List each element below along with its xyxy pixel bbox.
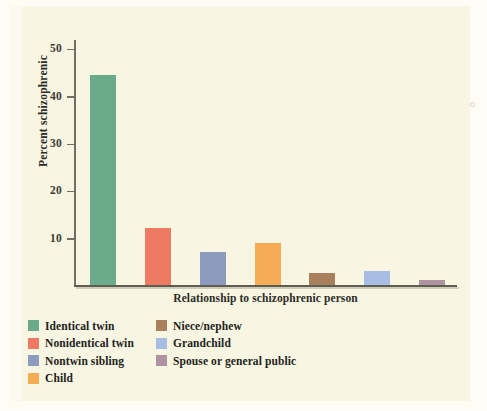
legend-item: Nontwin sibling: [28, 352, 134, 370]
legend-item-label: Identical twin: [45, 320, 114, 332]
legend-swatch-icon: [156, 338, 167, 349]
y-axis-tick-mark: [67, 144, 74, 146]
legend-item: Nonidentical twin: [28, 335, 134, 353]
legend-item-label: Niece/nephew: [173, 320, 242, 332]
legend-item: Spouse or general public: [156, 352, 296, 370]
x-axis-title: Relationship to schizophrenic person: [74, 292, 457, 304]
legend-swatch-icon: [28, 355, 39, 366]
bar: [90, 75, 116, 285]
y-axis-tick-mark: [67, 191, 74, 193]
y-axis-tick-mark: [67, 96, 74, 98]
x-axis-shadow: [76, 287, 459, 289]
legend-item: Grandchild: [156, 335, 296, 353]
y-axis-tick-mark: [67, 49, 74, 51]
y-axis-tick-label: 10: [22, 232, 62, 244]
legend-item: Child: [28, 370, 134, 388]
legend-column-right: Niece/nephewGrandchildSpouse or general …: [156, 317, 296, 370]
bars-container: [74, 40, 457, 285]
bar: [145, 228, 171, 285]
bar: [309, 273, 335, 285]
scan-artifact-dot: [470, 102, 475, 107]
legend-swatch-icon: [28, 320, 39, 331]
bar: [255, 243, 281, 285]
legend-item-label: Grandchild: [173, 337, 231, 349]
legend-item-label: Nontwin sibling: [45, 355, 124, 367]
y-axis-title: Percent schizophrenic: [37, 21, 49, 201]
x-axis-line: [74, 285, 457, 287]
page-left-edge: [9, 6, 23, 401]
legend-swatch-icon: [28, 338, 39, 349]
bar: [200, 252, 226, 285]
y-axis-tick-mark: [67, 238, 74, 240]
legend-item: Identical twin: [28, 317, 134, 335]
legend-item-label: Child: [45, 372, 73, 384]
legend-item-label: Nonidentical twin: [45, 337, 134, 349]
legend-item: Niece/nephew: [156, 317, 296, 335]
chart-figure: 5040302010 Percent schizophrenic Relatio…: [0, 0, 487, 411]
legend-column-left: Identical twinNonidentical twinNontwin s…: [28, 317, 134, 387]
legend-swatch-icon: [156, 355, 167, 366]
y-axis-tick: 10: [0, 232, 74, 246]
bar: [364, 271, 390, 285]
legend-swatch-icon: [156, 320, 167, 331]
legend-swatch-icon: [28, 373, 39, 384]
legend-item-label: Spouse or general public: [173, 355, 296, 367]
